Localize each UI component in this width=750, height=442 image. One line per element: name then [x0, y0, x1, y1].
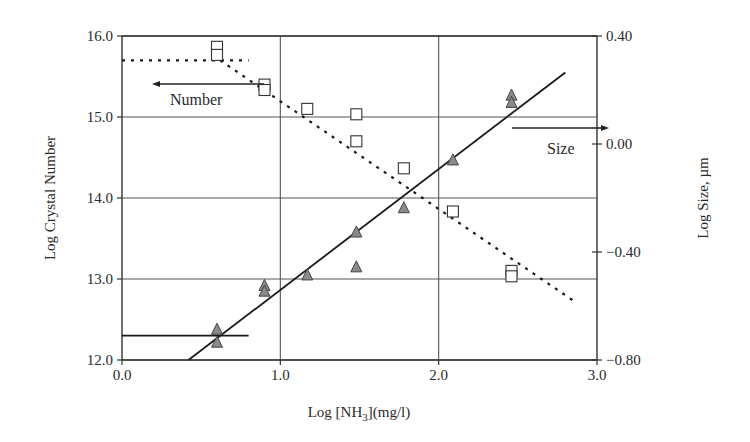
size-arrow-head-icon [601, 125, 609, 131]
number-label: Number [170, 91, 223, 108]
triangle-marker-icon [351, 261, 362, 272]
square-marker-icon [447, 206, 458, 217]
square-marker-icon [212, 49, 223, 60]
y-tick-label: 15.0 [87, 109, 113, 125]
x-axis-title: Log [NH3](mg/l) [308, 404, 411, 423]
number-arrow-head-icon [152, 81, 160, 87]
axes [117, 36, 602, 365]
y2-tick-label: −0.80 [606, 352, 641, 368]
x-tick-label: 0.0 [113, 367, 132, 383]
data-markers [212, 41, 518, 347]
y2-tick-label: 0.40 [606, 28, 632, 44]
x-tick-label: 2.0 [429, 367, 448, 383]
triangle-marker-icon [302, 269, 313, 280]
y2-tick-label: −0.40 [606, 244, 641, 260]
square-marker-icon [259, 85, 270, 96]
square-marker-icon [302, 103, 313, 114]
y-tick-label: 13.0 [87, 271, 113, 287]
y2-axis-title: Log Size, µm [695, 157, 711, 239]
size-label: Size [547, 140, 575, 157]
square-marker-icon [351, 136, 362, 147]
y-axis-title: Log Crystal Number [42, 136, 58, 260]
number-annotation: Number [152, 81, 264, 108]
triangle-marker-icon [212, 323, 223, 334]
fit-line [189, 72, 566, 360]
chart-canvas: 12.013.014.015.016.00.01.02.03.0−0.80−0.… [0, 0, 750, 442]
fit-line [220, 60, 573, 300]
square-marker-icon [506, 271, 517, 282]
size-annotation: Size [512, 125, 609, 157]
triangle-marker-icon [398, 202, 409, 213]
tick-labels: 12.013.014.015.016.00.01.02.03.0−0.80−0.… [87, 28, 641, 383]
square-marker-icon [351, 109, 362, 120]
triangle-marker-icon [351, 226, 362, 237]
y2-tick-label: 0.00 [606, 136, 632, 152]
square-marker-icon [398, 163, 409, 174]
y-tick-label: 16.0 [87, 28, 113, 44]
y-tick-label: 14.0 [87, 190, 113, 206]
x-tick-label: 3.0 [588, 367, 607, 383]
x-tick-label: 1.0 [271, 367, 290, 383]
y-tick-label: 12.0 [87, 352, 113, 368]
